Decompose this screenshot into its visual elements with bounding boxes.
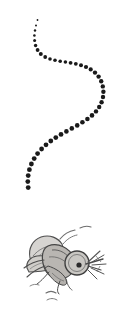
- trail-dot: [34, 44, 37, 47]
- trail-dot: [79, 63, 83, 67]
- trail-dot: [93, 70, 97, 74]
- trail-dot: [64, 60, 68, 64]
- trail-dot: [69, 61, 73, 65]
- head: [65, 251, 89, 275]
- trail-dot: [53, 135, 58, 140]
- trail-dot: [36, 48, 40, 52]
- trail-dot: [35, 151, 40, 156]
- trail-dot: [34, 29, 36, 31]
- trail-dot: [70, 126, 75, 131]
- trail-dot: [48, 139, 53, 144]
- trail-dot: [75, 123, 80, 128]
- trail-dot: [101, 90, 105, 94]
- trail-dot: [89, 67, 93, 71]
- trail-dot: [39, 147, 44, 152]
- trail-dot: [99, 79, 103, 83]
- trail-dot: [26, 185, 31, 190]
- trail-dot: [53, 59, 57, 63]
- trail-dot: [90, 113, 95, 118]
- trail-dot: [33, 39, 36, 42]
- trail-dot: [85, 117, 90, 122]
- trail-dot: [101, 95, 105, 99]
- trail-dot: [59, 132, 64, 137]
- scene-svg: [0, 0, 136, 317]
- trail-dot: [44, 142, 49, 147]
- eye: [76, 262, 81, 267]
- trail-dot: [35, 25, 37, 27]
- trail-dot: [84, 65, 88, 69]
- trail-dot: [33, 34, 36, 37]
- illustration-canvas: Mosquito flight path A dotted S-shaped f…: [0, 0, 136, 317]
- trail-dot: [39, 52, 43, 56]
- trail-dot: [32, 156, 37, 161]
- trail-dot: [26, 173, 31, 178]
- trail-dot: [58, 59, 62, 63]
- trail-dot: [99, 100, 103, 104]
- trail-dot: [43, 55, 47, 59]
- trail-dot: [37, 19, 39, 21]
- trail-dot: [27, 167, 32, 172]
- trail-dot: [48, 57, 52, 61]
- trail-dot: [80, 120, 85, 125]
- trail-dot: [101, 84, 105, 88]
- trail-dot: [64, 129, 69, 134]
- trail-dot: [29, 162, 34, 167]
- trail-dot: [94, 109, 98, 113]
- trail-dot: [25, 179, 30, 184]
- trail-dot: [97, 105, 101, 109]
- trail-dot: [96, 74, 100, 78]
- trail-dot: [74, 62, 78, 66]
